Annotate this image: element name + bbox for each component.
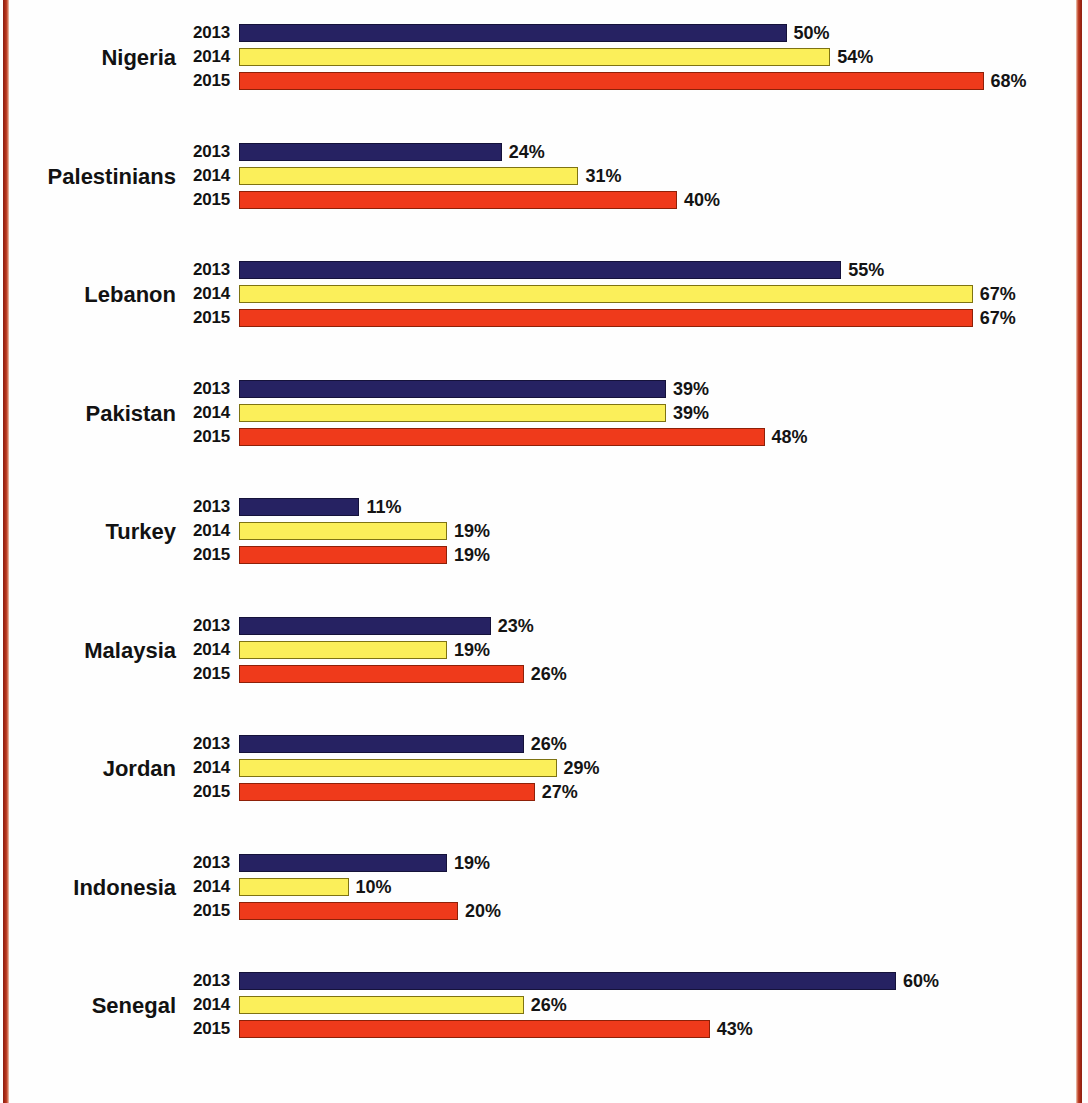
country-label: Pakistan	[0, 402, 176, 426]
bar-row: 201326%	[193, 732, 1088, 756]
bar-2014[interactable]	[239, 759, 557, 777]
bar-rows: 201311%201419%201519%	[193, 495, 1088, 567]
bar-value-label: 19%	[454, 854, 490, 872]
year-label: 2014	[193, 878, 239, 896]
bar-track: 67%	[239, 306, 1088, 330]
chart-page: Nigeria201350%201454%201568%Palestinians…	[0, 0, 1088, 1103]
bar-value-label: 39%	[673, 380, 709, 398]
bar-2014[interactable]	[239, 878, 349, 896]
bar-2013[interactable]	[239, 143, 502, 161]
bar-2013[interactable]	[239, 380, 666, 398]
bar-row: 201350%	[193, 21, 1088, 45]
bar-value-label: 26%	[531, 665, 567, 683]
bar-rows: 201360%201426%201543%	[193, 969, 1088, 1041]
bar-2014[interactable]	[239, 167, 578, 185]
bar-row: 201540%	[193, 188, 1088, 212]
bar-track: 23%	[239, 614, 1088, 638]
bar-2014[interactable]	[239, 404, 666, 422]
bar-track: 10%	[239, 875, 1088, 899]
bar-2014[interactable]	[239, 996, 524, 1014]
bar-row: 201567%	[193, 306, 1088, 330]
year-label: 2015	[193, 783, 239, 801]
year-label: 2015	[193, 72, 239, 90]
year-label: 2013	[193, 498, 239, 516]
bar-2014[interactable]	[239, 285, 973, 303]
bar-2014[interactable]	[239, 522, 447, 540]
bar-group: Lebanon201355%201467%201567%	[0, 258, 1088, 344]
bar-value-label: 19%	[454, 546, 490, 564]
year-label: 2013	[193, 735, 239, 753]
bar-value-label: 54%	[837, 48, 873, 66]
bar-value-label: 26%	[531, 735, 567, 753]
bar-group: Turkey201311%201419%201519%	[0, 495, 1088, 581]
bar-track: 60%	[239, 969, 1088, 993]
bar-row: 201419%	[193, 638, 1088, 662]
bar-value-label: 19%	[454, 641, 490, 659]
year-label: 2014	[193, 522, 239, 540]
bar-value-label: 31%	[585, 167, 621, 185]
year-label: 2013	[193, 261, 239, 279]
bar-2015[interactable]	[239, 1020, 710, 1038]
bar-row: 201543%	[193, 1017, 1088, 1041]
bar-track: 48%	[239, 425, 1088, 449]
year-label: 2013	[193, 854, 239, 872]
bar-track: 29%	[239, 756, 1088, 780]
bar-2015[interactable]	[239, 309, 973, 327]
bar-row: 201426%	[193, 993, 1088, 1017]
bar-2013[interactable]	[239, 498, 359, 516]
bar-track: 55%	[239, 258, 1088, 282]
bar-2013[interactable]	[239, 972, 896, 990]
year-label: 2014	[193, 641, 239, 659]
bar-track: 39%	[239, 377, 1088, 401]
bar-track: 19%	[239, 638, 1088, 662]
bar-track: 39%	[239, 401, 1088, 425]
bar-row: 201323%	[193, 614, 1088, 638]
grouped-bar-chart: Nigeria201350%201454%201568%Palestinians…	[0, 0, 1088, 1103]
bar-track: 19%	[239, 543, 1088, 567]
bar-rows: 201350%201454%201568%	[193, 21, 1088, 93]
bar-2014[interactable]	[239, 48, 830, 66]
bar-rows: 201355%201467%201567%	[193, 258, 1088, 330]
year-label: 2015	[193, 309, 239, 327]
year-label: 2014	[193, 167, 239, 185]
bar-rows: 201323%201419%201526%	[193, 614, 1088, 686]
bar-rows: 201324%201431%201540%	[193, 140, 1088, 212]
country-label: Malaysia	[0, 639, 176, 663]
bar-2015[interactable]	[239, 546, 447, 564]
bar-2015[interactable]	[239, 783, 535, 801]
year-label: 2014	[193, 404, 239, 422]
year-label: 2014	[193, 48, 239, 66]
bar-rows: 201339%201439%201548%	[193, 377, 1088, 449]
bar-2015[interactable]	[239, 191, 677, 209]
bar-value-label: 43%	[717, 1020, 753, 1038]
bar-row: 201419%	[193, 519, 1088, 543]
bar-2013[interactable]	[239, 24, 787, 42]
bar-track: 68%	[239, 69, 1088, 93]
bar-2015[interactable]	[239, 428, 765, 446]
bar-2015[interactable]	[239, 665, 524, 683]
bar-2013[interactable]	[239, 261, 841, 279]
bar-2015[interactable]	[239, 902, 458, 920]
year-label: 2015	[193, 191, 239, 209]
bar-2013[interactable]	[239, 854, 447, 872]
bar-value-label: 55%	[848, 261, 884, 279]
country-label: Nigeria	[0, 46, 176, 70]
bar-2015[interactable]	[239, 72, 984, 90]
bar-2013[interactable]	[239, 617, 491, 635]
bar-value-label: 48%	[772, 428, 808, 446]
bar-track: 54%	[239, 45, 1088, 69]
bar-track: 50%	[239, 21, 1088, 45]
bar-row: 201439%	[193, 401, 1088, 425]
country-label: Palestinians	[0, 165, 176, 189]
bar-row: 201355%	[193, 258, 1088, 282]
bar-2013[interactable]	[239, 735, 524, 753]
bar-value-label: 24%	[509, 143, 545, 161]
bar-track: 26%	[239, 732, 1088, 756]
country-label: Lebanon	[0, 283, 176, 307]
bar-row: 201520%	[193, 899, 1088, 923]
bar-track: 20%	[239, 899, 1088, 923]
bar-value-label: 40%	[684, 191, 720, 209]
year-label: 2014	[193, 759, 239, 777]
bar-row: 201519%	[193, 543, 1088, 567]
bar-2014[interactable]	[239, 641, 447, 659]
